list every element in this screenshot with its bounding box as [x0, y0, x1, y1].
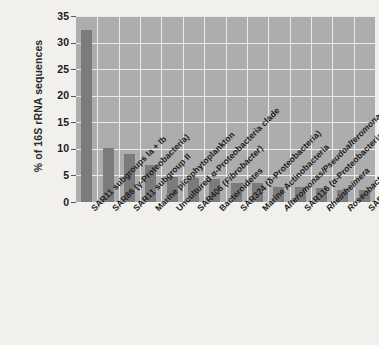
bar	[81, 30, 92, 202]
y-axis-tick-label: 35	[29, 11, 69, 22]
y-axis-tick-label: 30	[29, 37, 69, 48]
gridline-vertical	[97, 16, 98, 202]
y-axis-tick-label: 10	[29, 143, 69, 154]
y-axis-tick-label: 5	[29, 170, 69, 181]
y-axis-tick-label: 20	[29, 90, 69, 101]
x-axis-labels: SAR11 subgroups Ia + IbSAR86 (γ-Proteoba…	[0, 202, 379, 345]
y-axis-tick-label: 15	[29, 117, 69, 128]
bar-chart-figure: % of 16S rRNA sequences 05101520253035 S…	[0, 0, 379, 345]
y-axis-tick-label: 25	[29, 64, 69, 75]
